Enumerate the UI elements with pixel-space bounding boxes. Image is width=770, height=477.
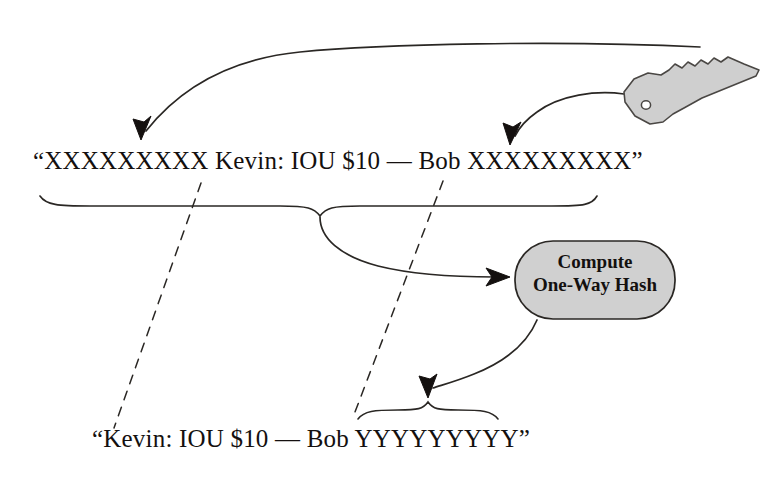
hash-box-label: Compute One-Way Hash xyxy=(517,250,673,296)
hash-box-label-line1: Compute xyxy=(517,250,673,273)
signed-message-brace xyxy=(40,196,597,216)
hash-to-output-arrow xyxy=(419,320,537,398)
brace-to-hash-arrow xyxy=(320,217,510,286)
arrowhead xyxy=(419,374,437,398)
key-icon xyxy=(624,57,759,124)
diagram-canvas: “XXXXXXXXX Kevin: IOU $10 — Bob XXXXXXXX… xyxy=(0,0,770,477)
dashed-correspondence-right xyxy=(355,181,443,412)
key-hole xyxy=(641,101,650,109)
hashed-message-text: “Kevin: IOU $10 — Bob YYYYYYYYY” xyxy=(92,425,530,453)
signed-message-text: “XXXXXXXXX Kevin: IOU $10 — Bob XXXXXXXX… xyxy=(33,147,643,175)
key-to-message-prefix-arrow xyxy=(133,43,700,140)
diagram-vector-layer xyxy=(0,0,770,477)
hashed-message-brace xyxy=(358,402,498,419)
key-to-message-suffix-arrow xyxy=(503,93,624,145)
arrowhead xyxy=(503,122,521,145)
hash-box-label-line2: One-Way Hash xyxy=(517,273,673,296)
dashed-correspondence-left xyxy=(114,183,201,428)
